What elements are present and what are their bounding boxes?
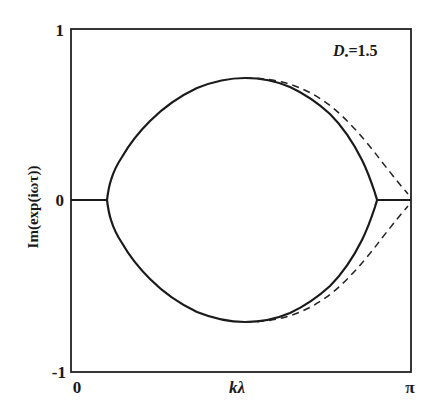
plot-frame: [71, 29, 411, 372]
dashed-upper-curve: [245, 78, 408, 194]
x-tick-0: 0: [73, 378, 82, 397]
chart-canvas: 1 0 -1 0 kλ π Im(exp(iωτ)) D•=1.5: [0, 0, 436, 418]
y-axis-label: Im(exp(iωτ)): [25, 166, 42, 249]
solid-lower-branch: [107, 200, 377, 322]
annotation-symbol: D: [332, 42, 345, 59]
y-tick-0: 0: [56, 191, 65, 210]
y-tick-1: 1: [56, 21, 65, 40]
y-tick-neg1: -1: [52, 363, 66, 382]
x-axis-label: kλ: [229, 378, 246, 397]
dashed-lower-curve: [245, 206, 408, 322]
annotation-value: =1.5: [348, 42, 377, 59]
annotation-parameter: D•=1.5: [332, 42, 378, 61]
x-tick-pi: π: [405, 378, 415, 397]
solid-upper-branch: [107, 78, 377, 200]
